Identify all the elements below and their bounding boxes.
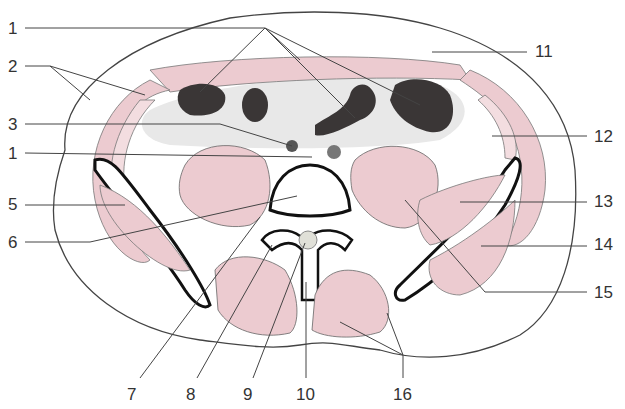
label-3: 3 bbox=[8, 116, 17, 133]
label-15: 15 bbox=[594, 284, 613, 301]
label-5: 5 bbox=[8, 196, 17, 213]
cross-section-drawing bbox=[0, 0, 625, 409]
label-12: 12 bbox=[594, 128, 613, 145]
anatomy-diagram: 1 2 3 1 5 6 7 8 9 10 11 12 13 14 15 16 bbox=[0, 0, 625, 409]
label-14: 14 bbox=[594, 236, 613, 253]
label-8: 8 bbox=[186, 386, 195, 403]
label-9: 9 bbox=[243, 386, 252, 403]
spinal-cord bbox=[299, 231, 317, 249]
label-7: 7 bbox=[127, 386, 136, 403]
label-10: 10 bbox=[296, 386, 315, 403]
label-2: 2 bbox=[8, 58, 17, 75]
label-1: 1 bbox=[8, 20, 17, 37]
label-11: 11 bbox=[535, 43, 553, 60]
bowel-loop-2 bbox=[242, 88, 268, 122]
label-6: 6 bbox=[8, 234, 17, 251]
label-4: 1 bbox=[8, 145, 17, 162]
label-16: 16 bbox=[393, 386, 412, 403]
vessel-right bbox=[327, 145, 341, 159]
label-13: 13 bbox=[594, 193, 613, 210]
